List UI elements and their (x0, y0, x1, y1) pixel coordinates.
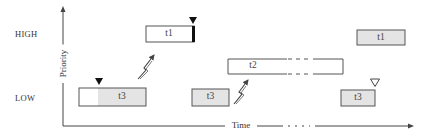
time-axis-arrowhead-icon (408, 124, 414, 129)
lock-release-triangle-icon (371, 79, 380, 87)
task-label-t3-third: t3 (341, 93, 375, 103)
task-label-t2: t2 (228, 61, 278, 71)
priority-axis-arrowhead-icon (61, 6, 66, 12)
task-label-t1-second: t1 (357, 33, 405, 43)
blocked-bar (192, 26, 195, 42)
lock-acquire-triangle-icon (95, 78, 103, 85)
level-label-low: LOW (15, 94, 35, 103)
priority-axis-title: Priority (59, 45, 68, 83)
task-label-t1-first: t1 (146, 29, 192, 39)
preemption-arrow-t2-icon (234, 80, 248, 104)
preemption-arrow-t1-icon (138, 55, 154, 79)
task-label-t3-first: t3 (98, 92, 146, 102)
lock-request-triangle-icon (189, 17, 197, 24)
level-label-high: HIGH (15, 30, 37, 39)
task-label-t3-second: t3 (192, 92, 229, 102)
time-axis-title: Time (228, 121, 254, 130)
